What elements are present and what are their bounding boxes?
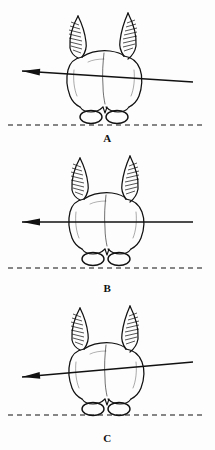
figure-panel-c: C (0, 300, 215, 450)
bone-hatching-c (71, 313, 139, 345)
panel-label-a: A (0, 132, 215, 144)
arrowhead-left-icon (22, 219, 40, 226)
reference-axis-line-a (22, 69, 193, 82)
bone-hatching-a (69, 20, 137, 53)
bone-hatching-b (71, 163, 139, 195)
arrowhead-left-icon (22, 69, 40, 76)
panel-a-drawing (0, 0, 215, 150)
figure-root: A (0, 0, 215, 450)
arrowhead-left-icon (22, 372, 40, 379)
figure-caption-partial (0, 441, 215, 450)
panel-b-drawing (0, 150, 215, 300)
panel-c-drawing (0, 300, 215, 450)
panel-label-b: B (0, 282, 215, 294)
figure-panel-b: B (0, 150, 215, 300)
figure-panel-a: A (0, 0, 215, 150)
reference-axis-line-c (22, 362, 193, 379)
reference-axis-line-b (22, 219, 193, 226)
